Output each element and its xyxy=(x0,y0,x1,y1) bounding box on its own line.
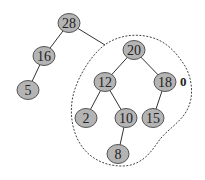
node-12: 12 xyxy=(94,73,116,92)
node-16: 16 xyxy=(33,47,55,66)
svg-text:20: 20 xyxy=(127,43,141,58)
svg-text:15: 15 xyxy=(146,111,160,126)
node-15: 15 xyxy=(142,109,164,128)
node-28: 28 xyxy=(58,14,80,33)
svg-text:28: 28 xyxy=(62,16,76,31)
svg-text:18: 18 xyxy=(158,75,172,90)
node-8: 8 xyxy=(107,145,129,164)
svg-text:16: 16 xyxy=(37,49,51,64)
svg-text:10: 10 xyxy=(119,111,133,126)
node-10: 10 xyxy=(115,109,137,128)
svg-text:12: 12 xyxy=(98,75,112,90)
svg-text:8: 8 xyxy=(115,147,122,162)
node-20: 20 xyxy=(123,41,145,60)
svg-text:2: 2 xyxy=(83,111,90,126)
balance-label: 0 xyxy=(180,74,187,89)
node-5: 5 xyxy=(17,81,39,100)
tree-diagram: 28 16 5 20 12 18 2 10 15 8 0 xyxy=(0,0,205,180)
node-18: 18 xyxy=(154,73,176,92)
svg-text:5: 5 xyxy=(25,83,32,98)
node-2: 2 xyxy=(75,109,97,128)
